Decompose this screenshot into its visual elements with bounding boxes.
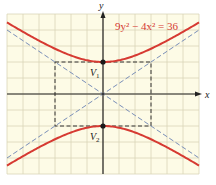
hyperbola-figure: x y 9y² − 4x² = 36 V1 V2 [0,0,216,185]
x-axis-label: x [204,89,210,100]
equation-label: 9y² − 4x² = 36 [115,20,179,32]
y-axis-label: y [98,0,104,11]
